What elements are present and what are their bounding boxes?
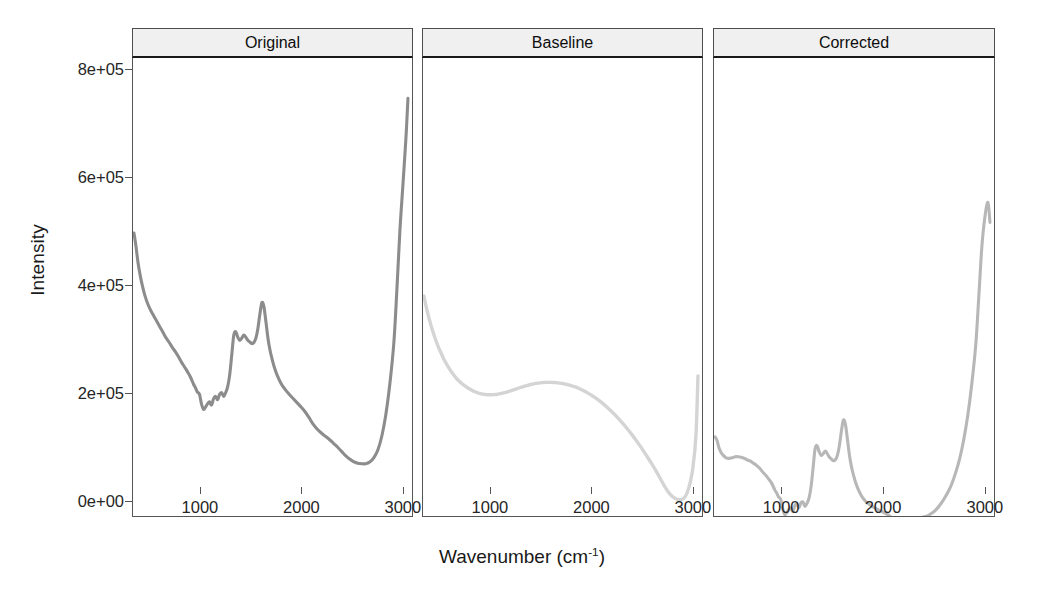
original-spectrum-line bbox=[134, 98, 408, 463]
x-axis-tick-label: 2000 bbox=[865, 498, 902, 517]
series-original-svg bbox=[133, 58, 412, 516]
x-axis-tick-mark bbox=[200, 487, 201, 494]
x-axis-tick-mark bbox=[591, 487, 592, 494]
x-axis-tick-mark bbox=[490, 487, 491, 494]
panel-corrected: Corrected bbox=[713, 28, 995, 517]
y-axis-tick-labels: 0e+002e+054e+056e+058e+05 bbox=[46, 0, 124, 603]
x-axis-tick-label: 3000 bbox=[966, 498, 1003, 517]
x-axis-tick-mark bbox=[693, 487, 694, 494]
x-axis-tick-mark bbox=[985, 487, 986, 494]
x-axis-title-close: ) bbox=[599, 546, 605, 567]
plot-area-original bbox=[132, 58, 413, 517]
x-axis-tick-label: 2000 bbox=[283, 498, 320, 517]
y-axis-tick-label: 4e+05 bbox=[54, 275, 124, 294]
plot-area-corrected bbox=[713, 58, 995, 517]
plot-area-baseline bbox=[422, 58, 703, 517]
panel-strip-original: Original bbox=[132, 28, 413, 58]
x-axis-title: Wavenumber (cm-1) bbox=[0, 546, 1044, 568]
x-axis-tick-label: 3000 bbox=[674, 498, 711, 517]
corrected-spectrum-line bbox=[715, 202, 990, 516]
x-axis-tick-mark bbox=[403, 487, 404, 494]
x-axis-tick-mark bbox=[883, 487, 884, 494]
y-axis-tick-label: 8e+05 bbox=[54, 59, 124, 78]
panel-strip-label: Baseline bbox=[532, 34, 593, 52]
series-baseline-svg bbox=[423, 58, 702, 516]
x-axis-tick-label: 1000 bbox=[763, 498, 800, 517]
x-axis-tick-label: 3000 bbox=[384, 498, 421, 517]
panel-strip-label: Original bbox=[245, 34, 300, 52]
x-axis-title-superscript: -1 bbox=[588, 545, 598, 558]
panel-strip-corrected: Corrected bbox=[713, 28, 995, 58]
y-axis-tick-mark bbox=[125, 285, 132, 286]
panel-strip-baseline: Baseline bbox=[422, 28, 703, 58]
y-axis-tick-mark bbox=[125, 393, 132, 394]
y-axis-tick-label: 6e+05 bbox=[54, 167, 124, 186]
panel-original: Original bbox=[132, 28, 413, 517]
x-axis-title-main: Wavenumber (cm bbox=[439, 546, 588, 567]
x-axis-tick-label: 1000 bbox=[182, 498, 219, 517]
baseline-curve-line bbox=[424, 296, 698, 499]
y-axis-tick-mark bbox=[125, 177, 132, 178]
panel-strip-label: Corrected bbox=[819, 34, 889, 52]
spectral-baseline-figure: Intensity 0e+002e+054e+056e+058e+05 Orig… bbox=[0, 0, 1044, 603]
x-axis-tick-mark bbox=[301, 487, 302, 494]
x-axis-tick-label: 1000 bbox=[472, 498, 509, 517]
x-axis-tick-mark bbox=[781, 487, 782, 494]
series-corrected-svg bbox=[714, 58, 994, 516]
y-axis-tick-mark bbox=[125, 501, 132, 502]
panel-baseline: Baseline bbox=[422, 28, 703, 517]
y-axis-tick-label: 2e+05 bbox=[54, 383, 124, 402]
x-axis-tick-label: 2000 bbox=[573, 498, 610, 517]
y-axis-tick-mark bbox=[125, 69, 132, 70]
y-axis-tick-label: 0e+00 bbox=[54, 491, 124, 510]
